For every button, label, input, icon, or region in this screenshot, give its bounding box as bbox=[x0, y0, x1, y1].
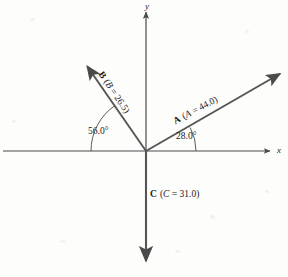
vector-c-equals: = bbox=[169, 189, 179, 199]
vector-c-paren-close: ) bbox=[196, 189, 199, 199]
vector-diagram: y x 56.0° 28.0° A(A = 44.0) B(B = 26.5) … bbox=[0, 0, 288, 277]
angle-label-56: 56.0° bbox=[88, 127, 108, 137]
angle-label-28: 28.0° bbox=[176, 132, 196, 142]
vector-c-magnitude: 31.0 bbox=[180, 189, 197, 199]
vector-c-label: C(C = 31.0) bbox=[150, 190, 199, 200]
x-axis-label: x bbox=[277, 146, 281, 155]
vector-c-bold-name: C bbox=[150, 189, 157, 199]
vector-a-arrow bbox=[146, 74, 280, 151]
y-axis-label: y bbox=[145, 2, 149, 11]
vector-b-arrow bbox=[87, 66, 146, 151]
